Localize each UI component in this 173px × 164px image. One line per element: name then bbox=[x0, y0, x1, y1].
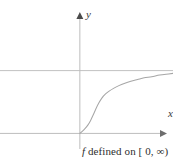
y-axis-arrow-icon bbox=[76, 12, 83, 19]
graph-canvas bbox=[0, 0, 173, 164]
caption-text: defined on [ 0, ∞) bbox=[85, 145, 168, 157]
x-axis-arrow-icon bbox=[160, 130, 167, 137]
figure-caption: f defined on [ 0, ∞) bbox=[82, 145, 168, 158]
x-axis-label: x bbox=[168, 108, 173, 119]
function-graph-figure: y x f defined on [ 0, ∞) bbox=[0, 0, 173, 164]
function-curve-path bbox=[80, 73, 173, 133]
y-axis-label: y bbox=[86, 9, 91, 20]
